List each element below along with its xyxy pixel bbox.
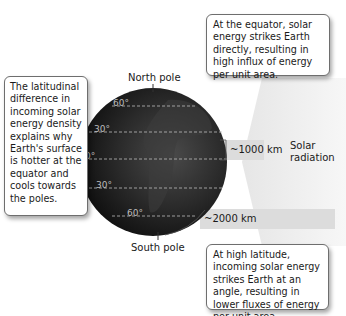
north-pole-label: North pole [128, 72, 181, 83]
equator-callout: At the equator, solar energy strikes Ear… [206, 14, 330, 76]
solar-radiation-label: Solar radiation [290, 140, 340, 164]
high-latitude-band-label: ~2000 km [204, 213, 257, 224]
south-pole-label: South pole [131, 242, 185, 253]
latitudinal-callout: The latitudinal difference in incoming s… [4, 76, 88, 216]
lat-30s: 30° [96, 180, 112, 190]
high-latitude-callout: At high latitude, incoming solar energy … [206, 244, 329, 310]
lat-30n: 30° [94, 124, 110, 134]
equator-band-label: ~1000 km [230, 144, 283, 155]
lat-60s: 60° [127, 208, 143, 218]
lat-60n: 60° [113, 98, 129, 108]
